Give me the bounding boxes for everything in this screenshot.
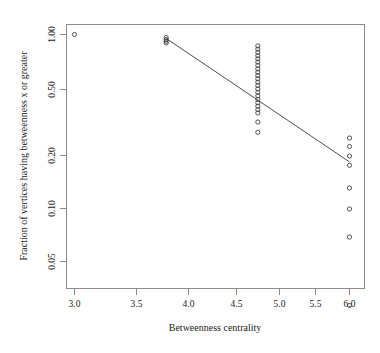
y-axis-title: Fraction of vertices having betweenness … <box>18 51 29 261</box>
y-axis-tick-labels: 1.00 0.50 0.20 0.10 0.05 <box>47 26 57 270</box>
data-points-group <box>72 32 351 307</box>
y-tick-label-3: 0.10 <box>47 200 57 217</box>
data-point <box>256 130 260 134</box>
scatter-plot: 3.0 3.5 4.0 4.5 5.0 5.5 6.0 1.00 0.50 0.… <box>0 0 380 353</box>
y-tick-label-2: 0.20 <box>47 147 57 164</box>
data-point <box>347 154 351 158</box>
plot-frame <box>67 25 365 289</box>
x-axis-title: Betweenness centrality <box>169 322 261 333</box>
data-point <box>72 32 76 36</box>
data-point <box>347 235 351 239</box>
data-point <box>347 136 351 140</box>
x-axis-tick-labels: 3.0 3.5 4.0 4.5 5.0 5.5 6.0 <box>69 299 356 309</box>
y-tick-label-0: 1.00 <box>47 26 57 43</box>
x-tick-label-1: 3.5 <box>131 299 143 309</box>
y-axis-ticks <box>60 35 66 262</box>
data-point <box>347 144 351 148</box>
chart-figure: 3.0 3.5 4.0 4.5 5.0 5.5 6.0 1.00 0.50 0.… <box>0 0 380 353</box>
data-point <box>347 163 351 167</box>
y-tick-label-1: 0.50 <box>47 81 57 98</box>
x-axis-ticks <box>75 289 350 295</box>
data-point <box>347 186 351 190</box>
y-tick-label-4: 0.05 <box>47 253 57 270</box>
x-tick-label-2: 4.0 <box>183 299 195 309</box>
x-tick-label-0: 3.0 <box>69 299 81 309</box>
x-tick-label-4: 5.0 <box>274 299 286 309</box>
data-point <box>256 120 260 124</box>
x-tick-label-5: 5.5 <box>310 299 322 309</box>
data-point <box>347 207 351 211</box>
x-tick-label-3: 4.5 <box>231 299 243 309</box>
